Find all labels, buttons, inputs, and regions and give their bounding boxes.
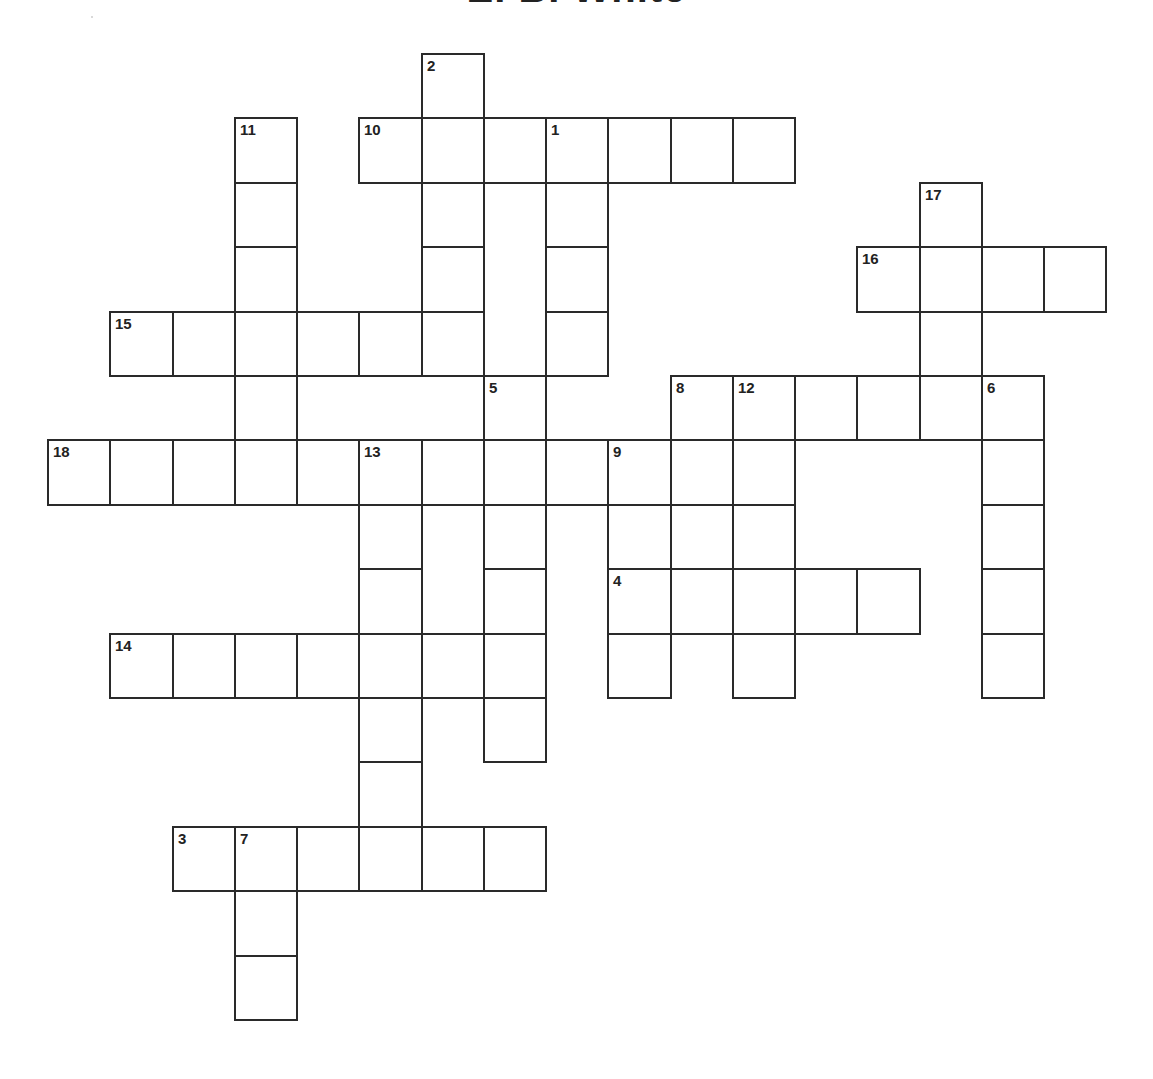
grid-cell[interactable] bbox=[981, 633, 1045, 699]
grid-cell[interactable]: 16 bbox=[856, 246, 921, 313]
grid-cell[interactable] bbox=[794, 568, 858, 635]
grid-cell[interactable] bbox=[234, 375, 298, 441]
grid-cell[interactable] bbox=[358, 633, 423, 699]
grid-cell[interactable] bbox=[172, 439, 236, 506]
grid-cell[interactable] bbox=[981, 504, 1045, 570]
grid-cell[interactable] bbox=[483, 439, 547, 506]
grid-cell[interactable] bbox=[981, 246, 1045, 313]
grid-cell[interactable] bbox=[358, 311, 423, 377]
grid-cell[interactable] bbox=[670, 439, 734, 506]
grid-cell[interactable] bbox=[732, 504, 796, 570]
grid-cell[interactable] bbox=[296, 439, 360, 506]
grid-cell[interactable]: 17 bbox=[919, 182, 983, 248]
grid-cell[interactable] bbox=[358, 826, 423, 892]
grid-cell[interactable] bbox=[545, 246, 609, 313]
grid-cell[interactable] bbox=[483, 504, 547, 570]
clue-number: 7 bbox=[240, 831, 248, 847]
grid-cell[interactable] bbox=[421, 182, 485, 248]
grid-cell[interactable] bbox=[296, 826, 360, 892]
clue-number: 13 bbox=[364, 444, 381, 460]
grid-cell[interactable] bbox=[172, 311, 236, 377]
grid-cell[interactable] bbox=[607, 504, 672, 570]
grid-cell[interactable] bbox=[421, 311, 485, 377]
grid-cell[interactable] bbox=[856, 375, 921, 441]
grid-cell[interactable]: 10 bbox=[358, 117, 423, 184]
grid-cell[interactable] bbox=[234, 311, 298, 377]
grid-cell[interactable] bbox=[1043, 246, 1107, 313]
grid-cell[interactable] bbox=[670, 504, 734, 570]
clue-number: 4 bbox=[613, 573, 621, 589]
grid-cell[interactable] bbox=[421, 246, 485, 313]
grid-cell[interactable] bbox=[483, 117, 547, 184]
grid-cell[interactable] bbox=[421, 439, 485, 506]
clue-number: 5 bbox=[489, 380, 497, 396]
grid-cell[interactable]: 4 bbox=[607, 568, 672, 635]
grid-cell[interactable] bbox=[234, 955, 298, 1021]
grid-cell[interactable] bbox=[358, 697, 423, 763]
grid-cell[interactable] bbox=[421, 826, 485, 892]
grid-cell[interactable] bbox=[545, 182, 609, 248]
grid-cell[interactable] bbox=[483, 697, 547, 763]
grid-cell[interactable]: 11 bbox=[234, 117, 298, 184]
grid-cell[interactable] bbox=[732, 633, 796, 699]
clue-number: 2 bbox=[427, 58, 435, 74]
clue-number: 12 bbox=[738, 380, 755, 396]
grid-cell[interactable] bbox=[483, 568, 547, 635]
grid-cell[interactable] bbox=[545, 311, 609, 377]
grid-cell[interactable]: 14 bbox=[109, 633, 174, 699]
grid-cell[interactable] bbox=[296, 633, 360, 699]
grid-cell[interactable] bbox=[234, 633, 298, 699]
grid-cell[interactable] bbox=[234, 182, 298, 248]
clue-number: 14 bbox=[115, 638, 132, 654]
grid-cell[interactable] bbox=[358, 504, 423, 570]
grid-cell[interactable] bbox=[421, 117, 485, 184]
grid-cell[interactable] bbox=[732, 439, 796, 506]
grid-cell[interactable] bbox=[234, 439, 298, 506]
grid-cell[interactable] bbox=[670, 117, 734, 184]
grid-cell[interactable] bbox=[109, 439, 174, 506]
clue-number: 8 bbox=[676, 380, 684, 396]
grid-cell[interactable]: 6 bbox=[981, 375, 1045, 441]
grid-cell[interactable] bbox=[732, 568, 796, 635]
grid-cell[interactable] bbox=[670, 568, 734, 635]
grid-cell[interactable]: 3 bbox=[172, 826, 236, 892]
grid-cell[interactable] bbox=[296, 311, 360, 377]
grid-cell[interactable] bbox=[172, 633, 236, 699]
grid-cell[interactable] bbox=[421, 633, 485, 699]
grid-cell[interactable]: 15 bbox=[109, 311, 174, 377]
grid-cell[interactable]: 2 bbox=[421, 53, 485, 119]
grid-cell[interactable] bbox=[607, 117, 672, 184]
grid-cell[interactable]: 13 bbox=[358, 439, 423, 506]
grid-cell[interactable] bbox=[981, 439, 1045, 506]
grid-cell[interactable] bbox=[234, 246, 298, 313]
grid-cell[interactable] bbox=[545, 439, 609, 506]
grid-cell[interactable] bbox=[234, 890, 298, 957]
grid-cell[interactable]: 18 bbox=[47, 439, 111, 506]
clue-number: 10 bbox=[364, 122, 381, 138]
grid-cell[interactable]: 12 bbox=[732, 375, 796, 441]
grid-cell[interactable] bbox=[607, 633, 672, 699]
grid-cell[interactable] bbox=[919, 311, 983, 377]
clue-number: 11 bbox=[240, 122, 256, 138]
clue-number: 17 bbox=[925, 187, 942, 203]
grid-cell[interactable] bbox=[483, 826, 547, 892]
grid-cell[interactable]: 9 bbox=[607, 439, 672, 506]
grid-cell[interactable] bbox=[732, 117, 796, 184]
clue-number: 1 bbox=[551, 122, 559, 138]
grid-cell[interactable]: 5 bbox=[483, 375, 547, 441]
grid-cell[interactable] bbox=[358, 761, 423, 828]
clue-number: 3 bbox=[178, 831, 186, 847]
grid-cell[interactable] bbox=[919, 375, 983, 441]
clue-number: 9 bbox=[613, 444, 621, 460]
grid-cell[interactable]: 8 bbox=[670, 375, 734, 441]
grid-cell[interactable]: 1 bbox=[545, 117, 609, 184]
clue-number: 15 bbox=[115, 316, 132, 332]
grid-cell[interactable] bbox=[856, 568, 921, 635]
grid-cell[interactable] bbox=[358, 568, 423, 635]
grid-cell[interactable] bbox=[981, 568, 1045, 635]
grid-cell[interactable] bbox=[483, 633, 547, 699]
grid-cell[interactable] bbox=[919, 246, 983, 313]
clue-number: 6 bbox=[987, 380, 995, 396]
grid-cell[interactable] bbox=[794, 375, 858, 441]
grid-cell[interactable]: 7 bbox=[234, 826, 298, 892]
